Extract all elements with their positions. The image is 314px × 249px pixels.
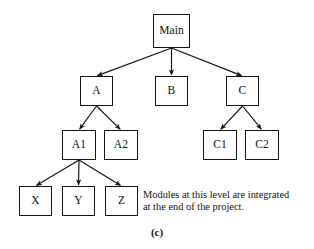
integration-note-line-1: Modules at this level are integrated	[143, 189, 289, 201]
module-box-b[interactable]: B	[155, 76, 188, 106]
module-hierarchy-diagram: Main A B C A1 A2 C1 C2 X Y Z Modules at …	[0, 0, 314, 249]
module-label-b: B	[168, 85, 176, 97]
module-label-y: Y	[74, 195, 82, 207]
module-box-c1[interactable]: C1	[203, 130, 237, 160]
edge-a-to-a1	[80, 106, 97, 129]
integration-note: Modules at this level are integrated at …	[143, 189, 289, 212]
edge-main-to-c	[172, 48, 242, 76]
edge-paths	[36, 48, 261, 185]
module-box-a[interactable]: A	[80, 76, 113, 106]
module-label-c: C	[239, 85, 247, 97]
module-label-c2: C2	[255, 139, 269, 151]
module-label-a1: A1	[72, 139, 86, 151]
module-label-a2: A2	[114, 139, 128, 151]
module-box-z[interactable]: Z	[105, 186, 138, 216]
module-label-z: Z	[118, 195, 125, 207]
module-box-c2[interactable]: C2	[245, 130, 279, 160]
edge-main-to-a	[97, 48, 171, 76]
edge-c-to-c2	[243, 106, 262, 129]
edge-c-to-c1	[221, 106, 243, 129]
module-box-x[interactable]: X	[19, 186, 52, 216]
integration-note-line-2: at the end of the project.	[143, 201, 289, 213]
module-label-c1: C1	[213, 139, 227, 151]
module-label-main: Main	[159, 25, 184, 37]
edge-a1-to-x	[36, 160, 79, 185]
module-label-a: A	[92, 85, 100, 97]
module-box-a1[interactable]: A1	[62, 130, 96, 160]
edge-a1-to-z	[79, 160, 121, 185]
module-box-c[interactable]: C	[226, 76, 259, 106]
module-box-main[interactable]: Main	[153, 14, 190, 48]
figure-caption: (c)	[0, 226, 314, 238]
module-box-y[interactable]: Y	[62, 186, 95, 216]
module-box-a2[interactable]: A2	[104, 130, 138, 160]
module-label-x: X	[31, 195, 39, 207]
edge-a-to-a2	[97, 106, 121, 129]
